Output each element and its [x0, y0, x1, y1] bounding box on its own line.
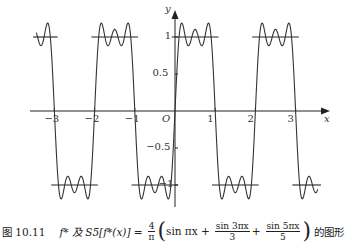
x-axis-label: x [324, 113, 330, 124]
x-tick-label: −3 [44, 113, 59, 124]
y-tick-label: 1 [165, 30, 171, 41]
caption-suffix: 的图形 [314, 224, 344, 239]
coefficient-fraction: 4 π [148, 221, 156, 242]
term-1: sin πx + [166, 225, 210, 237]
y-tick-label: 0.5 [152, 67, 168, 78]
term-3-denominator: 5 [280, 232, 286, 242]
figure-number: 图 10.11 [2, 224, 45, 239]
y-tick-label: −0.5 [146, 141, 170, 152]
figure-caption: 图 10.11 f* 及 S5[f*(x)] = 4 π ( sin πx + … [0, 216, 360, 246]
y-axis-arrow-icon [172, 10, 179, 19]
x-tick-label: 2 [247, 113, 253, 124]
fourier-plot [0, 0, 360, 212]
right-paren: ) [302, 220, 311, 242]
term-2-fraction: sin 3πx 3 [215, 221, 250, 242]
left-paren: ( [157, 220, 166, 242]
y-axis-label: y [165, 3, 171, 14]
origin-label: O [162, 113, 170, 124]
term-2-denominator: 3 [229, 232, 235, 242]
term-3-fraction: sin 5πx 5 [266, 221, 301, 242]
plus-sign: + [252, 225, 261, 237]
coef-numerator: 4 [148, 221, 156, 232]
caption-lhs: f* 及 S5[f*(x)] = [59, 224, 142, 239]
x-tick-label: −1 [125, 113, 140, 124]
y-tick-label: −1 [159, 178, 174, 189]
x-tick-label: 1 [207, 113, 213, 124]
x-tick-label: 3 [288, 113, 294, 124]
coef-denominator: π [149, 232, 155, 242]
x-tick-label: −2 [85, 113, 100, 124]
term-3-numerator: sin 5πx [266, 221, 301, 232]
term-2-numerator: sin 3πx [215, 221, 250, 232]
